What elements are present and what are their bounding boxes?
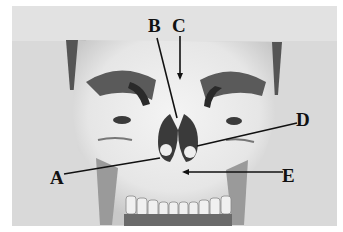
label-e: E: [282, 166, 295, 185]
label-b: B: [148, 16, 161, 35]
label-d: D: [296, 110, 310, 129]
skull-photo: [12, 6, 337, 226]
label-c: C: [172, 16, 186, 35]
skull-illustration: [12, 6, 337, 226]
label-a: A: [50, 168, 64, 187]
